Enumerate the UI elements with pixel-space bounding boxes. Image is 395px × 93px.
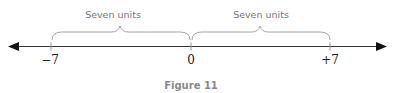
tick-label-zero: 0 (187, 53, 195, 67)
left-arrow-icon (8, 42, 19, 51)
number-line-figure: −7 0 +7 Seven units Seven units Figure 1… (0, 0, 395, 93)
figure-caption: Figure 11 (164, 80, 218, 91)
brace-label-left: Seven units (85, 9, 141, 20)
brace-right (192, 26, 330, 40)
right-arrow-icon (376, 42, 387, 51)
brace-label-right: Seven units (233, 9, 289, 20)
brace-left (52, 26, 190, 40)
tick-label-plus-7: +7 (321, 53, 339, 67)
tick-label-minus-7: −7 (41, 53, 59, 67)
